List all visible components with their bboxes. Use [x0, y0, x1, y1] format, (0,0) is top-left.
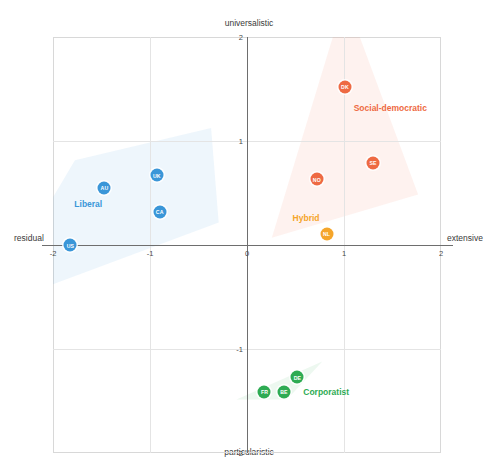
data-point-us[interactable]: US — [64, 239, 77, 252]
data-point-uk[interactable]: UK — [150, 169, 163, 182]
axis-label-top: universalistic — [225, 18, 274, 28]
plot-area: LiberalSocial-democraticHybridCorporatis… — [53, 37, 441, 453]
data-point-be[interactable]: BE — [277, 385, 290, 398]
x-axis-tick-label: 0 — [245, 249, 249, 258]
cluster-hull — [53, 128, 219, 309]
axis-label-right: extensive — [447, 233, 483, 243]
axis-stub-right — [441, 245, 453, 246]
group-label-social-democratic: Social-democratic — [354, 103, 427, 113]
data-point-se[interactable]: SE — [367, 156, 380, 169]
axis-label-left: residual — [14, 233, 44, 243]
data-point-au[interactable]: AU — [98, 181, 111, 194]
group-label-liberal: Liberal — [74, 199, 102, 209]
data-point-de[interactable]: DE — [291, 371, 304, 384]
data-point-ca[interactable]: CA — [153, 205, 166, 218]
y-axis-tick-label: -1 — [231, 345, 243, 354]
scatter-chart: universalistic particularistic residual … — [0, 0, 498, 474]
x-axis-tick-label: 2 — [439, 249, 443, 258]
y-axis-tick-label: -2 — [231, 449, 243, 458]
group-label-corporatist: Corporatist — [303, 387, 349, 397]
data-point-dk[interactable]: DK — [338, 80, 351, 93]
y-axis-tick-label: 1 — [231, 137, 243, 146]
x-axis-line — [53, 245, 441, 246]
data-point-fr[interactable]: FR — [258, 385, 271, 398]
data-point-no[interactable]: NO — [310, 173, 323, 186]
x-axis-tick-label: -1 — [147, 249, 154, 258]
x-axis-tick-label: -2 — [50, 249, 57, 258]
data-point-nl[interactable]: NL — [320, 227, 333, 240]
y-axis-tick-label: 2 — [231, 33, 243, 42]
x-axis-tick-label: 1 — [342, 249, 346, 258]
group-label-hybrid: Hybrid — [293, 213, 320, 223]
